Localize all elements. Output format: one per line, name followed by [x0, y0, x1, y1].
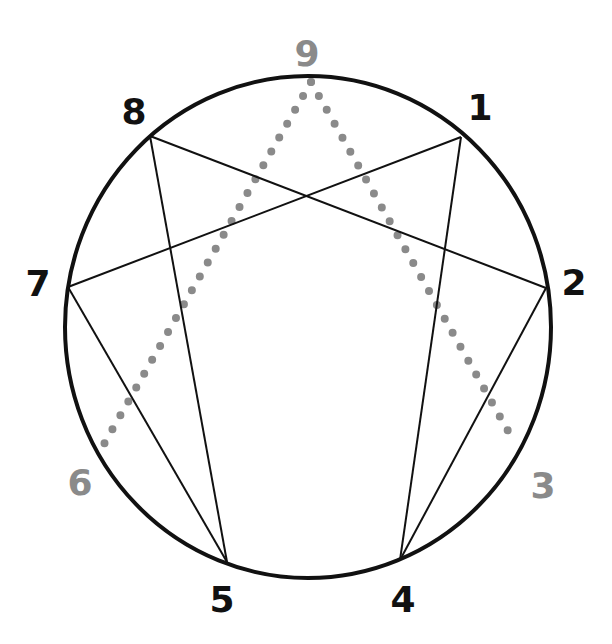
enneagram-diagram: 123456789 — [0, 0, 612, 644]
enneagram-canvas: 123456789 — [0, 0, 612, 644]
outer-circle — [65, 76, 551, 578]
dotted-line-9-3 — [311, 82, 512, 438]
point-label-4: 4 — [390, 579, 415, 620]
point-label-7: 7 — [25, 263, 50, 304]
solid-line-1-4 — [400, 137, 461, 560]
point-label-6: 6 — [67, 462, 92, 503]
point-label-1: 1 — [467, 87, 492, 128]
solid-line-4-2 — [400, 288, 546, 560]
dotted-line-9-6 — [104, 82, 311, 444]
point-label-5: 5 — [209, 579, 234, 620]
point-label-3: 3 — [530, 465, 555, 506]
point-label-9: 9 — [294, 33, 319, 74]
point-label-2: 2 — [561, 262, 586, 303]
point-label-8: 8 — [121, 91, 146, 132]
